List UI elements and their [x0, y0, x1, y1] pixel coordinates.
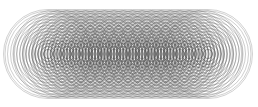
- circle-family-diagram: [0, 0, 258, 107]
- figure-canvas: Nested circle family forming stadium env…: [0, 0, 258, 107]
- circle-layer: [4, 10, 253, 99]
